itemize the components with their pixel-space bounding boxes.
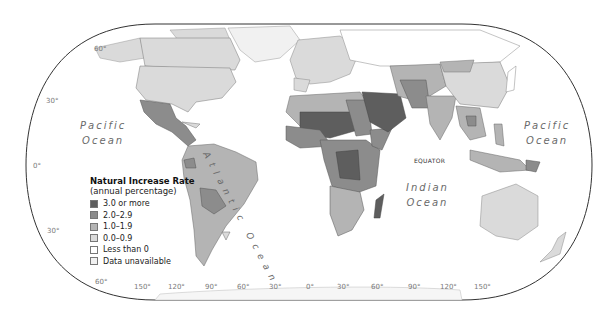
legend-swatch [90,246,98,254]
legend-swatch [90,211,98,219]
canada [140,38,240,70]
indian-ocean-label: Indian Ocean [406,180,449,210]
legend-label: Data unavailable [103,257,171,266]
ocean-label-line: Ocean [406,195,449,210]
legend-label: 1.0–1.9 [103,222,132,231]
legend-label: 3.0 or more [103,199,150,208]
ocean-label-line: Indian [406,180,449,195]
latitude-label: 60° [94,45,106,53]
latitude-label: 30° [46,97,58,105]
ecuador [184,158,196,168]
russia [340,30,520,66]
longitude-label: 150° [134,283,151,291]
map-legend: Natural Increase Rate (annual percentage… [90,176,195,267]
longitude-label: 0° [306,283,314,291]
legend-label: 0.0–0.9 [103,234,132,243]
latitude-label: 0° [33,162,41,170]
legend-swatch [90,257,98,265]
legend-swatch [90,234,98,242]
legend-item: 1.0–1.9 [90,221,195,233]
longitude-label: 30° [337,283,349,291]
mongolia [440,60,474,72]
pacific-ocean-east-label: Pacific Ocean [524,118,570,148]
longitude-label: 90° [205,283,217,291]
legend-item: 0.0–0.9 [90,233,195,245]
legend-item: 2.0–2.9 [90,210,195,222]
legend-title: Natural Increase Rate [90,176,195,186]
longitude-label: 60° [237,283,249,291]
congo [336,150,360,180]
legend-swatch [90,223,98,231]
longitude-label: 120° [440,283,457,291]
legend-label: Less than 0 [103,245,149,254]
latitude-label: 60° [95,278,107,286]
longitude-label: 90° [408,283,420,291]
ocean-label-line: Pacific [524,118,570,133]
ocean-label-line: Pacific [80,118,126,133]
equator-label: EQUATOR [414,157,445,164]
longitude-label: 30° [269,283,281,291]
pacific-ocean-west-label: Pacific Ocean [80,118,126,148]
ocean-label-line: Ocean [524,133,570,148]
laos [466,116,476,126]
world-map [0,0,616,320]
longitude-label: 60° [371,283,383,291]
latitude-label: 30° [47,227,59,235]
ocean-label-line: Ocean [80,133,126,148]
legend-item: Data unavailable [90,256,195,268]
legend-subtitle: (annual percentage) [90,186,195,196]
longitude-label: 120° [168,283,185,291]
longitude-label: 150° [474,283,491,291]
legend-swatch [90,200,98,208]
legend-item: Less than 0 [90,244,195,256]
legend-label: 2.0–2.9 [103,211,132,220]
legend-item: 3.0 or more [90,198,195,210]
